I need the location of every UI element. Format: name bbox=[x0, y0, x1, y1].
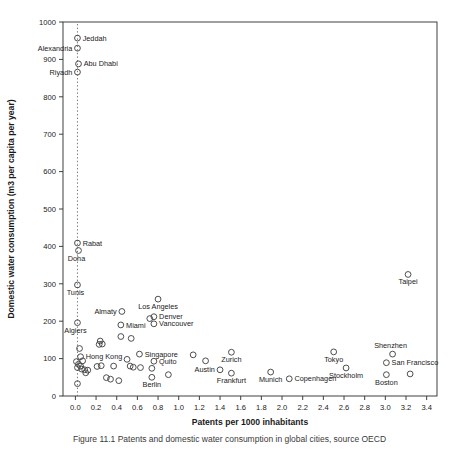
point-label-Abu Dhabi: Abu Dhabi bbox=[84, 59, 118, 68]
figure-container: 0.00.20.40.60.81.01.21.41.61.82.02.22.42… bbox=[0, 0, 459, 451]
data-point-unl_5 bbox=[128, 336, 134, 342]
x-tick-label: 0.2 bbox=[91, 403, 102, 412]
y-tick-label: 700 bbox=[43, 130, 56, 139]
y-tick-label: 400 bbox=[43, 242, 56, 251]
x-tick-label: 0.8 bbox=[153, 403, 164, 412]
data-point-unl_4 bbox=[118, 334, 124, 340]
x-tick-label: 1.2 bbox=[194, 403, 205, 412]
data-point-unl_28 bbox=[165, 372, 171, 378]
x-tick-label: 3.2 bbox=[401, 403, 412, 412]
data-point-Singapore bbox=[137, 351, 143, 357]
data-point-unl_22 bbox=[116, 378, 122, 384]
point-label-Vancouver: Vancouver bbox=[159, 319, 194, 328]
point-label-Taipei: Taipei bbox=[399, 277, 418, 286]
point-label-Austin: Austin bbox=[195, 365, 215, 374]
x-tick-label: 2.4 bbox=[318, 403, 329, 412]
point-label-Rabat: Rabat bbox=[83, 239, 102, 248]
data-point-unl_27 bbox=[149, 365, 155, 371]
y-tick-label: 300 bbox=[43, 280, 56, 289]
y-tick-label: 100 bbox=[43, 354, 56, 363]
x-tick-label: 0.4 bbox=[111, 403, 122, 412]
y-tick-label: 1000 bbox=[39, 18, 56, 27]
y-tick-label: 200 bbox=[43, 317, 56, 326]
point-label-SanFrancisco: San Francisco bbox=[392, 358, 439, 367]
y-tick-label: 0 bbox=[52, 392, 56, 401]
x-tick-label: 1.8 bbox=[256, 403, 267, 412]
data-point-Quito bbox=[151, 358, 157, 364]
y-tick-label: 900 bbox=[43, 55, 56, 64]
y-tick-label: 800 bbox=[43, 93, 56, 102]
data-point-unl_18 bbox=[98, 363, 104, 369]
x-tick-label: 0.6 bbox=[132, 403, 143, 412]
point-label-Doha: Doha bbox=[68, 254, 86, 263]
point-label-HongKong: Hong Kong bbox=[86, 352, 123, 361]
x-tick-label: 1.6 bbox=[235, 403, 246, 412]
data-point-Shenzhen bbox=[390, 351, 396, 357]
figure-caption: Figure 11.1 Patents and domestic water c… bbox=[22, 434, 437, 445]
point-label-Boston: Boston bbox=[375, 378, 398, 387]
point-label-Algiers: Algiers bbox=[64, 326, 87, 335]
point-label-Zurich: Zurich bbox=[221, 355, 241, 364]
y-axis-label: Domestic water consumption (m3 per capit… bbox=[6, 99, 16, 318]
point-label-Tokyo: Tokyo bbox=[324, 355, 343, 364]
data-point-Vancouver bbox=[151, 321, 157, 327]
point-label-Tunis: Tunis bbox=[67, 288, 85, 297]
data-point-Copenhagen bbox=[286, 376, 292, 382]
data-point-unl_23 bbox=[124, 356, 130, 362]
x-tick-label: 3.4 bbox=[421, 403, 432, 412]
point-label-Munich: Munich bbox=[259, 375, 283, 384]
x-tick-label: 2.6 bbox=[339, 403, 350, 412]
data-point-Miami bbox=[118, 322, 124, 328]
x-axis-label: Patents per 1000 inhabitants bbox=[192, 417, 309, 427]
data-point-unl_21 bbox=[111, 363, 117, 369]
point-label-Alexandria: Alexandria bbox=[38, 44, 73, 53]
data-point-unl_29 bbox=[190, 352, 196, 358]
y-tick-label: 600 bbox=[43, 167, 56, 176]
data-point-Austin bbox=[217, 367, 223, 373]
point-label-Frankfurt: Frankfurt bbox=[217, 376, 246, 385]
x-tick-label: 0.0 bbox=[70, 403, 81, 412]
scatter-plot: 0.00.20.40.60.81.01.21.41.61.82.02.22.42… bbox=[0, 0, 459, 451]
x-tick-label: 3.0 bbox=[380, 403, 391, 412]
point-label-Riyadh: Riyadh bbox=[50, 68, 73, 77]
x-tick-label: 2.8 bbox=[359, 403, 370, 412]
point-label-Berlin: Berlin bbox=[143, 380, 162, 389]
data-point-SanFrancisco bbox=[383, 360, 389, 366]
point-label-Jeddah: Jeddah bbox=[83, 34, 107, 43]
point-label-Stockholm: Stockholm bbox=[329, 371, 363, 380]
y-tick-label: 500 bbox=[43, 205, 56, 214]
x-tick-label: 2.0 bbox=[277, 403, 288, 412]
plot-frame bbox=[63, 22, 437, 396]
data-point-Almaty bbox=[119, 309, 125, 315]
data-point-unl_30 bbox=[203, 358, 209, 364]
data-point-unl_26 bbox=[138, 365, 144, 371]
x-tick-label: 1.4 bbox=[215, 403, 226, 412]
point-label-Quito: Quito bbox=[159, 357, 176, 366]
data-point-Abu Dhabi bbox=[76, 61, 82, 67]
x-tick-label: 1.0 bbox=[173, 403, 184, 412]
point-label-Shenzhen: Shenzhen bbox=[374, 341, 407, 350]
data-point-unl_31 bbox=[407, 371, 413, 377]
point-label-Miami: Miami bbox=[126, 321, 146, 330]
point-label-Almaty: Almaty bbox=[94, 307, 117, 316]
x-tick-label: 2.2 bbox=[297, 403, 308, 412]
point-label-Los Angeles: Los Angeles bbox=[138, 302, 178, 311]
